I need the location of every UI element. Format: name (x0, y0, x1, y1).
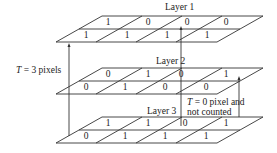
layer-3-front-cell-3: 1 (158, 131, 172, 141)
right-threshold-text: = 0 pixel and (192, 97, 244, 107)
layer-1-back-cell-3: 0 (180, 17, 194, 27)
right-threshold-annotation-line1: T = 0 pixel and (187, 97, 245, 107)
layer-2-back-cell-3: 0 (174, 69, 188, 79)
layer-1-front-cell-1: 1 (79, 30, 93, 40)
layer-2-back-cell-4: 1 (219, 69, 233, 79)
layer-2-back-cell-2: 1 (141, 69, 155, 79)
left-threshold-text: = 3 pixels (21, 65, 61, 75)
layer-1-front-cell-4: 1 (200, 30, 214, 40)
layer-3-label: Layer 3 (147, 106, 176, 116)
layer-2-front-cell-1: 0 (79, 82, 93, 92)
layer-2-label: Layer 2 (156, 56, 185, 66)
layer-1-back-cell-4: 0 (219, 17, 233, 27)
layer-1-label: Layer 1 (165, 2, 194, 12)
layer-2-front-cell-3: 0 (158, 82, 172, 92)
layer-2-front-cell-2: 1 (118, 82, 132, 92)
layer-3-back-cell-4: 1 (219, 118, 233, 128)
layer-3-front-cell-2: 1 (118, 131, 132, 141)
layer-3-front-cell-4: 1 (199, 131, 213, 141)
layer-1-front-cell-3: 1 (160, 30, 174, 40)
left-threshold-annotation: T = 3 pixels (16, 65, 61, 75)
right-threshold-annotation-line2: not counted (187, 107, 232, 117)
layers-diagram (0, 0, 277, 153)
layer-3-back-cell-1: 1 (101, 118, 115, 128)
layer-2-front-cell-4: 0 (199, 82, 213, 92)
right-arrowhead-icon (238, 76, 241, 80)
layer-3-back-cell-3: 0 (178, 118, 192, 128)
layer-1-back-cell-1: 1 (101, 17, 115, 27)
layer-1-back-cell-2: 0 (141, 17, 155, 27)
layer-3-back-cell-2: 1 (141, 118, 155, 128)
left-arrowhead-icon (68, 43, 71, 47)
layer-1-front-cell-2: 1 (120, 30, 134, 40)
layer-2-back-cell-1: 0 (101, 69, 115, 79)
layer-3-front-cell-1: 0 (79, 131, 93, 141)
